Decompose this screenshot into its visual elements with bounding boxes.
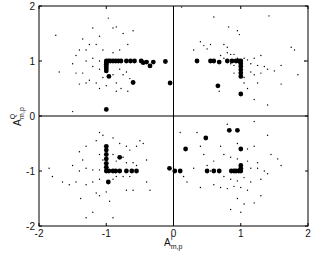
small-data-point	[122, 74, 123, 75]
small-data-point	[122, 157, 123, 158]
large-data-point	[163, 59, 168, 64]
small-data-point	[75, 55, 76, 56]
small-data-point	[132, 162, 133, 163]
small-data-point	[146, 181, 147, 182]
small-data-point	[109, 201, 110, 202]
y-tick-label: -1	[26, 166, 35, 177]
small-data-point	[82, 38, 83, 39]
large-data-point	[217, 169, 222, 174]
small-data-point	[243, 203, 244, 204]
small-data-point	[237, 143, 238, 144]
small-data-point	[233, 72, 234, 73]
large-data-point	[148, 64, 153, 69]
small-data-point	[99, 69, 100, 70]
small-data-point	[264, 170, 265, 171]
small-data-point	[102, 77, 103, 78]
small-data-point	[119, 49, 120, 50]
small-data-point	[257, 162, 258, 163]
small-data-point	[85, 217, 86, 218]
small-data-point	[230, 209, 231, 210]
small-data-point	[200, 146, 201, 147]
small-data-point	[183, 176, 184, 177]
small-data-point	[102, 49, 103, 50]
small-data-point	[119, 143, 120, 144]
small-data-point	[116, 82, 117, 83]
small-data-point	[257, 82, 258, 83]
small-data-point	[267, 135, 268, 136]
small-data-point	[230, 179, 231, 180]
small-data-point	[129, 176, 130, 177]
small-data-point	[85, 49, 86, 50]
small-data-point	[200, 187, 201, 188]
small-data-point	[230, 54, 231, 55]
small-data-point	[196, 132, 197, 133]
small-data-point	[233, 54, 234, 55]
small-data-point	[136, 165, 137, 166]
small-data-point	[260, 72, 261, 73]
small-data-point	[254, 58, 255, 59]
large-data-point	[129, 169, 134, 174]
small-data-point	[280, 65, 281, 66]
small-data-point	[89, 80, 90, 81]
small-data-point	[254, 121, 255, 122]
small-data-point	[227, 124, 228, 125]
small-data-point	[213, 16, 214, 17]
small-data-point	[69, 184, 70, 185]
small-data-point	[247, 190, 248, 191]
small-data-point	[257, 65, 258, 66]
small-data-point	[210, 44, 211, 45]
small-data-point	[132, 30, 133, 31]
small-data-point	[55, 35, 56, 36]
small-data-point	[106, 191, 107, 192]
small-data-point	[223, 176, 224, 177]
small-data-point	[126, 190, 127, 191]
small-data-point	[233, 186, 234, 187]
small-data-point	[72, 165, 73, 166]
small-data-point	[220, 146, 221, 147]
small-data-point	[237, 158, 238, 159]
y-tick-label: -2	[26, 221, 35, 232]
large-data-point	[124, 59, 129, 64]
small-data-point	[206, 48, 207, 49]
small-data-point	[92, 169, 93, 170]
small-data-point	[230, 157, 231, 158]
small-data-point	[227, 188, 228, 189]
small-data-point	[203, 154, 204, 155]
large-data-point	[238, 74, 243, 79]
small-data-point	[227, 52, 228, 53]
small-data-point	[136, 146, 137, 147]
small-data-point	[186, 181, 187, 182]
x-tick-label: -1	[102, 228, 111, 239]
small-data-point	[127, 44, 128, 45]
small-data-point	[250, 168, 251, 169]
small-data-point	[116, 160, 117, 161]
y-axis-label: AQm,p	[9, 107, 26, 126]
small-data-point	[291, 47, 292, 48]
small-data-point	[112, 27, 113, 28]
large-data-point	[211, 169, 216, 174]
small-data-point	[102, 135, 103, 136]
large-data-point	[205, 169, 210, 174]
y-tick-label: 2	[29, 1, 35, 12]
small-data-point	[85, 82, 86, 83]
small-data-point	[237, 180, 238, 181]
small-data-point	[96, 82, 97, 83]
small-data-point	[119, 69, 120, 70]
small-data-point	[92, 27, 93, 28]
large-data-point	[131, 80, 136, 85]
small-data-point	[116, 26, 117, 27]
small-data-point	[122, 176, 123, 177]
large-data-point	[225, 59, 230, 64]
small-data-point	[219, 91, 220, 92]
small-data-point	[79, 170, 80, 171]
small-data-point	[254, 99, 255, 100]
small-data-point	[180, 132, 181, 133]
large-data-point	[119, 59, 124, 64]
small-data-point	[143, 143, 144, 144]
small-data-point	[96, 44, 97, 45]
small-data-point	[99, 36, 100, 37]
large-data-point	[104, 69, 109, 74]
small-data-point	[85, 60, 86, 61]
small-data-point	[267, 69, 268, 70]
small-data-point	[112, 154, 113, 155]
